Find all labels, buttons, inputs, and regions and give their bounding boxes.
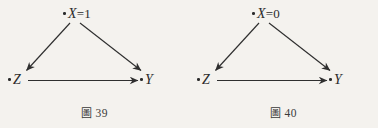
- caption-number: 40: [285, 107, 298, 119]
- figure-39-caption: 圖39: [0, 104, 189, 120]
- node-y-variable: Y: [334, 72, 342, 87]
- node-x: X=0: [252, 7, 280, 21]
- edge-x-to-z: [27, 23, 71, 71]
- node-dot-icon: [329, 78, 332, 81]
- node-dot-icon: [140, 78, 143, 81]
- edge-x-to-y: [269, 23, 330, 71]
- node-x-value: =1: [77, 6, 91, 21]
- caption-label: 圖: [81, 107, 93, 120]
- node-z-variable: Z: [202, 72, 210, 87]
- node-dot-icon: [197, 78, 200, 81]
- node-z-variable: Z: [13, 72, 21, 87]
- node-dot-icon: [63, 12, 66, 15]
- node-y: Y: [140, 73, 153, 87]
- node-x-variable: X: [257, 6, 266, 21]
- node-z: Z: [197, 73, 210, 87]
- node-x-variable: X: [68, 6, 77, 21]
- figure-40: X=0 Z Y 圖40: [189, 0, 378, 128]
- node-x-value: =0: [266, 6, 280, 21]
- node-x: X=1: [63, 7, 91, 21]
- caption-number: 39: [96, 107, 109, 119]
- node-dot-icon: [8, 78, 11, 81]
- figure-39: X=1 Z Y 圖39: [0, 0, 189, 128]
- causal-graph-40: [189, 0, 378, 100]
- node-dot-icon: [252, 12, 255, 15]
- scanned-figure-page: X=1 Z Y 圖39 X=0 Z: [0, 0, 378, 128]
- node-y: Y: [329, 73, 342, 87]
- caption-label: 圖: [270, 107, 282, 120]
- edge-x-to-y: [80, 23, 141, 71]
- edge-x-to-z: [216, 23, 260, 71]
- causal-graph-39: [0, 0, 189, 100]
- figure-40-caption: 圖40: [189, 104, 378, 120]
- node-y-variable: Y: [145, 72, 153, 87]
- node-z: Z: [8, 73, 21, 87]
